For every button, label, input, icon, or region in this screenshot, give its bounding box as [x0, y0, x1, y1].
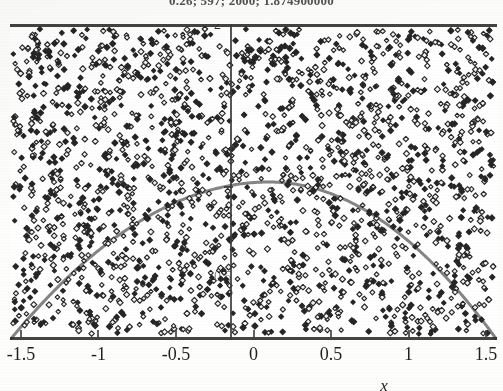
- x-tick-label: 1: [404, 344, 413, 365]
- x-axis-tick: [485, 330, 487, 337]
- plot-area: 2 0.5: [10, 24, 497, 340]
- axis-y-line: [230, 24, 232, 340]
- x-axis-tick: [253, 330, 255, 337]
- chart-screenshot: 0.26; 597; 2000; 1.874900000 2 0.5 -1.5-…: [0, 0, 503, 391]
- chart-title: 0.26; 597; 2000; 1.874900000: [0, 0, 503, 9]
- x-tick-label: -0.5: [162, 344, 191, 365]
- x-axis-tick-labels: -1.5-1-0.500.511.5: [0, 344, 503, 368]
- x-tick-label: -1.5: [7, 344, 36, 365]
- x-axis-tick: [408, 330, 410, 337]
- x-tick-label: 0.5: [320, 344, 343, 365]
- x-axis-tick: [20, 330, 22, 337]
- x-tick-label: 1.5: [475, 344, 498, 365]
- x-axis-title: x: [380, 376, 388, 391]
- axis-bottom-line: [10, 337, 497, 340]
- x-axis-tick: [97, 330, 99, 337]
- x-axis-tick: [175, 330, 177, 337]
- y-tick-label-mid: 0.5: [214, 269, 232, 285]
- y-axis-tick: [224, 186, 233, 188]
- x-axis-tick: [330, 330, 332, 337]
- y-tick-label-top: 2: [214, 24, 221, 33]
- x-tick-label: 0: [249, 344, 258, 365]
- x-tick-label: -1: [91, 344, 106, 365]
- axis-top-line: [10, 24, 497, 27]
- scatter-plot-canvas: [10, 24, 497, 340]
